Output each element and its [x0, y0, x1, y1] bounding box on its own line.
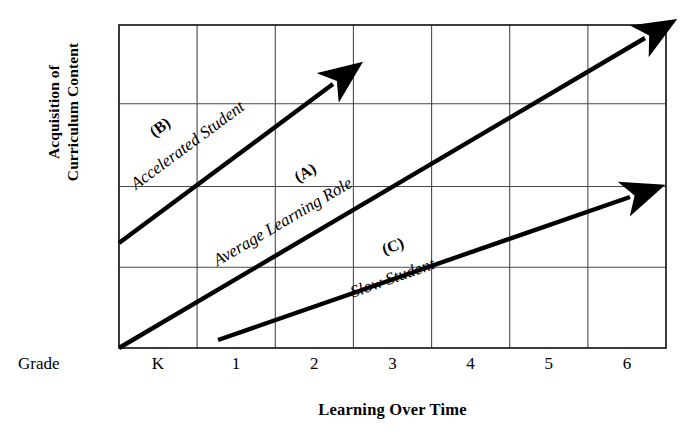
x-tick-label-6: 6 [588, 352, 666, 376]
x-axis-title: Learning Over Time [119, 400, 666, 420]
x-tick-label-4: 4 [432, 352, 510, 376]
x-tick-label-k: K [119, 352, 197, 376]
grade-row-label: Grade [18, 352, 110, 376]
plot-area [0, 0, 694, 446]
x-tick-label-2: 2 [275, 352, 353, 376]
chart-figure: Acquisition of Curriculum Content (B) Ac… [0, 0, 694, 446]
x-tick-label-1: 1 [197, 352, 275, 376]
x-tick-label-3: 3 [353, 352, 431, 376]
x-tick-label-5: 5 [510, 352, 588, 376]
